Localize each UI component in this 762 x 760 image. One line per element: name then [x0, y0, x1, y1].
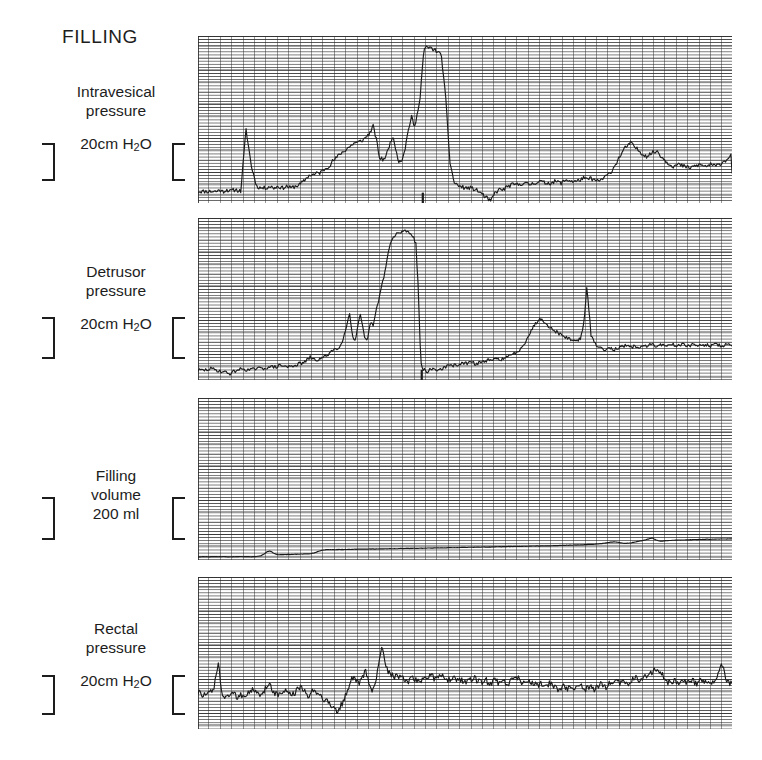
- trace-path: [198, 538, 732, 557]
- row-name-line2: pressure: [40, 101, 192, 120]
- trace-path: [198, 230, 732, 380]
- row-label-detrusor-pressure: Detrusor pressure 20cm H2O: [40, 262, 192, 337]
- trace-path: [198, 46, 732, 203]
- panel-filling-volume: [198, 398, 732, 560]
- scale-bracket-left-filling-volume: [42, 497, 55, 540]
- trace-filling-volume: [198, 398, 732, 560]
- row-name-line1: Rectal: [40, 619, 192, 638]
- row-scale-label: 20cm H2O: [40, 134, 192, 157]
- row-scale-label: 200 ml: [40, 504, 192, 523]
- row-scale-label: 20cm H2O: [40, 671, 192, 694]
- row-name-line2: volume: [40, 485, 192, 504]
- row-name-line2: pressure: [40, 638, 192, 657]
- panel-detrusor-pressure: [198, 218, 732, 380]
- trace-detrusor-pressure: [198, 218, 732, 380]
- panel-intravesical-pressure: [198, 36, 732, 203]
- trace-rectal-pressure: [198, 577, 732, 729]
- panel-rectal-pressure: [198, 577, 732, 729]
- row-label-filling-volume: Filling volume 200 ml: [40, 466, 192, 523]
- urodynamics-figure: FILLING Intravesical pressure 20cm H2O D…: [0, 0, 762, 760]
- trace-intravesical-pressure: [198, 36, 732, 203]
- scale-bracket-right-rectal: [172, 675, 185, 715]
- row-name-line2: pressure: [40, 281, 192, 300]
- scale-bracket-right-filling-volume: [172, 497, 185, 540]
- scale-bracket-right-intravesical: [172, 143, 185, 181]
- scale-bracket-left-rectal: [42, 675, 55, 715]
- row-label-rectal-pressure: Rectal pressure 20cm H2O: [40, 619, 192, 694]
- row-name-line1: Detrusor: [40, 262, 192, 281]
- row-name-line1: Intravesical: [40, 82, 192, 101]
- row-scale-label: 20cm H2O: [40, 314, 192, 337]
- page-title: FILLING: [62, 26, 138, 48]
- trace-path: [198, 647, 732, 713]
- scale-bracket-left-intravesical: [42, 143, 55, 181]
- scale-bracket-right-detrusor: [172, 317, 185, 359]
- row-name-line1: Filling: [40, 466, 192, 485]
- scale-bracket-left-detrusor: [42, 317, 55, 359]
- row-label-intravesical-pressure: Intravesical pressure 20cm H2O: [40, 82, 192, 157]
